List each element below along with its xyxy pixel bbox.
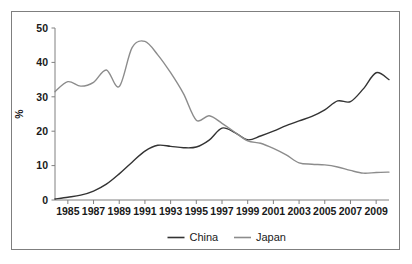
x-axis-tick-label: 2003: [287, 205, 311, 217]
x-axis-tick-label: 2009: [364, 205, 388, 217]
y-axis-tick-label: 0: [42, 194, 48, 206]
x-axis-tick-label: 1993: [159, 205, 183, 217]
y-axis-tick-label: 20: [36, 125, 48, 137]
x-axis-tick-label: 1991: [133, 205, 157, 217]
chart-legend: ChinaJapan: [168, 231, 286, 243]
x-axis-tick-label: 1987: [82, 205, 106, 217]
x-axis-tick-label: 1997: [210, 205, 234, 217]
y-axis-title: %: [13, 109, 25, 119]
x-axis: 1985198719891991199319951997199920012003…: [55, 200, 389, 217]
chart-figure: 01020304050 1985198719891991199319951997…: [0, 0, 412, 264]
x-axis-tick-label: 1989: [108, 205, 132, 217]
y-axis-tick-label: 30: [36, 91, 48, 103]
x-axis-tick-label: 2001: [262, 205, 286, 217]
series-line-japan: [55, 41, 389, 173]
y-axis: 01020304050: [36, 22, 55, 206]
series-line-china: [55, 73, 389, 199]
x-axis-tick-label: 1995: [185, 205, 209, 217]
line-chart: 01020304050 1985198719891991199319951997…: [0, 0, 412, 264]
y-axis-tick-label: 50: [36, 22, 48, 34]
y-axis-tick-label: 40: [36, 56, 48, 68]
legend-label-japan: Japan: [256, 231, 286, 243]
x-axis-tick-label: 1999: [236, 205, 260, 217]
series-lines: [55, 41, 389, 199]
legend-label-china: China: [190, 231, 220, 243]
x-axis-tick-label: 1985: [56, 205, 80, 217]
y-axis-tick-label: 10: [36, 159, 48, 171]
x-axis-tick-label: 2007: [339, 205, 363, 217]
x-axis-tick-label: 2005: [313, 205, 337, 217]
